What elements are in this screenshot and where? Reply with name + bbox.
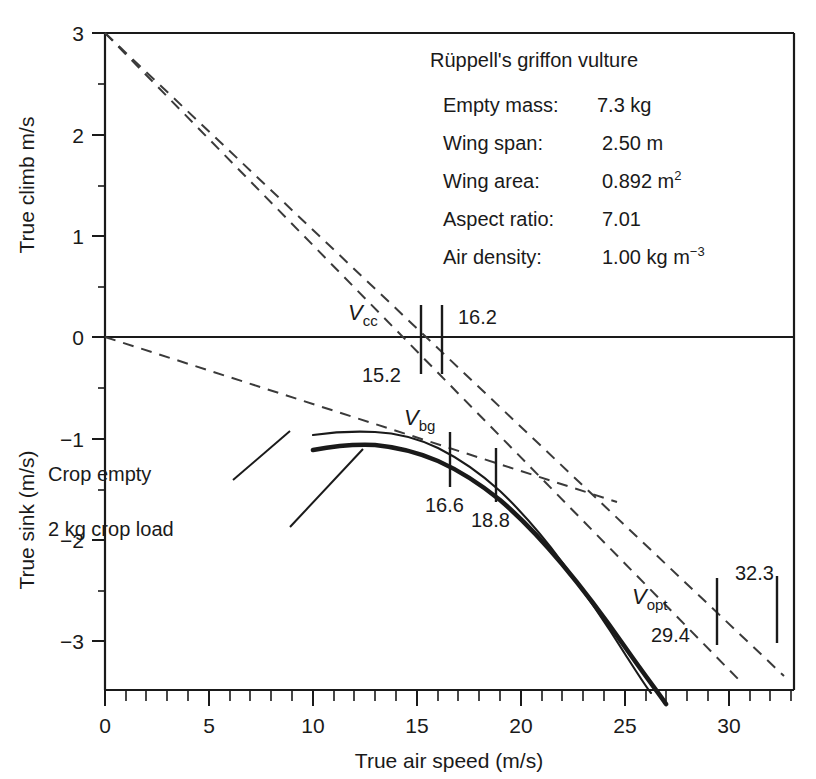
x-tick-label: 0: [99, 714, 111, 737]
label-vcc: Vcc: [348, 300, 378, 329]
leader-line-crop-loaded: [290, 449, 363, 527]
value-vcc-left: 15.2: [362, 364, 401, 386]
polar-curve-crop-loaded: [313, 445, 666, 704]
info-row-label: Air density:: [443, 246, 542, 268]
x-axis-tick-labels: 0 5 10 15 20 25 30: [99, 714, 741, 737]
x-tick-label: 25: [613, 714, 636, 737]
value-vopt-right: 32.3: [735, 562, 774, 584]
tangent-line-best-glide: [105, 337, 617, 502]
y-tick-label: 3: [72, 22, 84, 45]
info-row-label: Wing span:: [443, 132, 543, 154]
marker-vopt-group: [717, 576, 777, 645]
polar-curve-crop-empty: [313, 432, 651, 693]
info-box: Rüppell's griffon vulture Empty mass: 7.…: [430, 49, 705, 268]
y-axis-title-upper: True climb m/s: [15, 117, 38, 254]
x-tick-label: 5: [203, 714, 215, 737]
x-tick-label: 15: [405, 714, 428, 737]
x-axis-major-ticks: [105, 690, 729, 706]
curve-label-crop-empty: Crop empty: [48, 463, 151, 485]
y-axis-tick-labels: 3 2 1 0 −1 −2 −3: [60, 22, 84, 653]
x-tick-label: 20: [509, 714, 532, 737]
tangent-lines: [105, 33, 784, 683]
info-row-value: 2.50 m: [602, 132, 663, 154]
info-box-title: Rüppell's griffon vulture: [430, 49, 638, 71]
curve-label-crop-loaded: 2 kg crop load: [48, 518, 174, 540]
y-tick-label: −1: [60, 428, 84, 451]
info-row-value: 7.01: [602, 208, 641, 230]
y-axis-title-lower: True sink (m/s): [15, 450, 38, 589]
x-axis-minor-ticks: [126, 690, 791, 701]
leader-line-crop-empty: [233, 431, 290, 480]
value-vopt-left: 29.4: [651, 624, 690, 646]
marker-vcc-group: [421, 305, 442, 374]
y-tick-label: 0: [72, 326, 84, 349]
label-vbg: Vbg: [404, 405, 435, 434]
y-tick-label: 1: [72, 225, 84, 248]
info-row-label: Wing area:: [443, 170, 540, 192]
info-row-value: 7.3 kg: [597, 94, 651, 116]
x-tick-label: 10: [301, 714, 324, 737]
x-tick-label: 30: [717, 714, 740, 737]
y-tick-label: 2: [72, 124, 84, 147]
y-tick-label: −3: [60, 630, 84, 653]
value-vbg-right: 18.8: [471, 509, 510, 531]
info-row-label: Aspect ratio:: [443, 208, 554, 230]
value-vcc-right: 16.2: [458, 306, 497, 328]
info-row-value: 1.00 kg m−3: [602, 244, 705, 268]
label-vopt: Vopt: [632, 584, 668, 613]
figure-root: 3 2 1 0 −1 −2 −3: [0, 0, 816, 779]
value-vbg-left: 16.6: [425, 494, 464, 516]
glide-polar-chart: 3 2 1 0 −1 −2 −3: [0, 0, 816, 779]
tangent-line-cc-crop-loaded: [105, 33, 784, 676]
y-axis-major-ticks: [92, 33, 105, 641]
x-axis-title: True air speed (m/s): [355, 749, 543, 772]
info-row-value: 0.892 m2: [602, 168, 682, 192]
info-row-label: Empty mass:: [443, 94, 559, 116]
